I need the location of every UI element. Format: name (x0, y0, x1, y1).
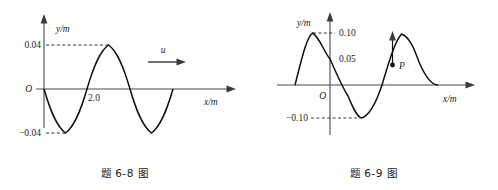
ytick-positive-6-8: 0.04 (24, 40, 41, 50)
velocity-arrow-6-8 (148, 59, 186, 66)
y-axis-label-6-8: y/m (55, 24, 70, 34)
wave-curve-6-9 (295, 33, 438, 118)
ytick-negative-6-8: −0.04 (19, 128, 41, 138)
origin-label-6-9: O (319, 91, 326, 101)
x-axis-label-6-9: x/m (442, 94, 457, 104)
origin-label-6-8: O (25, 84, 32, 94)
x-axis-6-9 (277, 82, 475, 89)
y-axis-6-9 (327, 12, 334, 135)
x-axis-label-6-8: x/m (203, 97, 218, 107)
ytick-positive-6-9: 0.10 (339, 28, 356, 38)
point-p-marker-6-9 (389, 31, 396, 67)
y-axis-label-6-9: y/m (296, 18, 311, 28)
point-p-label-6-9: P (398, 61, 405, 71)
caption-6-8: 题 6-8 图 (0, 165, 249, 180)
ytick-mid-6-9: 0.05 (339, 54, 356, 64)
plot-6-9: y/m x/m O 0.10 0.05 −0.10 P (249, 0, 498, 160)
xtick-2-0-6-8: 2.0 (88, 93, 100, 103)
figure-6-8: y/m x/m O 0.04 −0.04 2.0 u 题 6-8 图 (0, 0, 249, 190)
figure-6-9: y/m x/m O 0.10 0.05 −0.10 P 题 6-9 图 (249, 0, 498, 190)
ytick-negative-6-9: −0.10 (286, 113, 308, 123)
point-p-arrow-head (389, 31, 396, 41)
figure-page: y/m x/m O 0.04 −0.04 2.0 u 题 6-8 图 (0, 0, 498, 190)
plot-6-8: y/m x/m O 0.04 −0.04 2.0 u (0, 0, 249, 160)
y-axis-6-8 (41, 14, 48, 128)
velocity-label-6-8: u (161, 45, 166, 55)
point-p-dot (390, 63, 395, 68)
caption-6-9: 题 6-9 图 (249, 165, 498, 180)
x-axis-6-8 (36, 86, 236, 93)
